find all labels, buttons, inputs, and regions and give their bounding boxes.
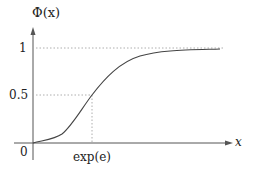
cdf-diagram [0,0,253,170]
y-axis-label-text: Φ(x) [32,5,60,20]
tick-label-one: 1 [19,42,27,54]
y-axis-arrow-icon [31,27,36,35]
tick-label-zero: 0 [20,146,28,158]
x-axis-label: x [235,136,242,148]
tick-label-half: 0.5 [9,89,28,101]
tick-label-exp: exp(e) [73,151,111,163]
cdf-curve [33,49,220,143]
y-axis-label: Φ(x) [32,6,60,19]
x-axis-arrow-icon [225,141,233,146]
